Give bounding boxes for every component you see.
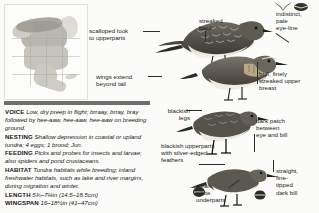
annotation-dark-bill: straight, fine- tipped dark bill: [276, 167, 316, 196]
info-value-length: 5¾–7¼in (14.5–18.5cm): [32, 191, 98, 198]
map-graticule-v3: [62, 18, 63, 86]
leader-blackish-upperparts: [199, 164, 225, 165]
leader-dark-bill: [273, 160, 274, 172]
leader-eye-line: [275, 33, 289, 43]
leader-scalloped-look: [143, 31, 160, 32]
bird-eye: [260, 172, 262, 174]
leader-blackish-legs: [186, 110, 202, 111]
annotation-dark-patch: dark patch between eye and bill: [256, 117, 308, 139]
info-row-nesting: NESTING Shallow depression in coastal or…: [5, 133, 151, 149]
bird-eye: [251, 115, 254, 118]
annotation-buff-breast: buff, finely streaked upper breast: [259, 70, 317, 92]
leader-streaked-back: [205, 31, 206, 42]
info-row-wingspan: WINGSPAN 16–18½in (41–47cm): [5, 199, 151, 207]
flight-silhouette-svg-4: [253, 190, 267, 201]
info-row-length: LENGTH 5¾–7¼in (14.5–18.5cm): [5, 191, 151, 199]
leader-buff-breast: [257, 62, 258, 84]
field-guide-page: scalloped look to upperparts wings exten…: [0, 0, 319, 213]
info-row-habitat: HABITAT Tundra habitats while breeding; …: [5, 166, 151, 190]
range-map: [4, 4, 88, 100]
annotation-scalloped-look: scalloped look to upperparts: [89, 27, 147, 41]
info-row-feeding: FEEDING Picks and probes for insects and…: [5, 149, 151, 165]
bird-bill: [263, 29, 273, 32]
info-key-wingspan: WINGSPAN: [5, 199, 39, 206]
annotation-blackish-upperparts: blackish upperparts with silver-edged fe…: [161, 142, 235, 164]
leader-wings-extend: [148, 76, 162, 77]
info-value-voice: Low, dry preep in flight; brraay, brray,…: [5, 108, 146, 131]
info-key-feeding: FEEDING: [5, 149, 33, 156]
bird-eye: [255, 27, 258, 30]
annotation-wings-extend: wings extend beyond tail: [96, 73, 150, 87]
bird-wingtip: [180, 73, 198, 79]
map-graticule-v2: [46, 18, 47, 86]
map-graticule-v1: [30, 18, 31, 86]
info-key-nesting: NESTING: [5, 133, 33, 140]
bird-eye: [268, 60, 271, 63]
info-key-voice: VOICE: [5, 108, 24, 115]
bird-bill: [276, 62, 288, 65]
bird-flight-silhouette-4: [253, 190, 267, 201]
info-key-length: LENGTH: [5, 191, 31, 198]
info-value-wingspan: 16–18½in (41–47cm): [41, 199, 98, 206]
annotation-streaked-back: streaked back: [199, 17, 233, 31]
bird-wingtip: [155, 45, 183, 53]
info-key-habitat: HABITAT: [5, 166, 32, 173]
bird-wingtip: [176, 126, 193, 132]
info-row-voice: VOICE Low, dry preep in flight; brraay, …: [5, 108, 151, 132]
leader-dark-patch: [254, 134, 255, 152]
annotation-eye-line: indistinct, pale eye-line: [276, 10, 318, 32]
species-info-block: VOICE Low, dry preep in flight; brraay, …: [5, 108, 151, 208]
info-divider-rule: [4, 101, 150, 105]
